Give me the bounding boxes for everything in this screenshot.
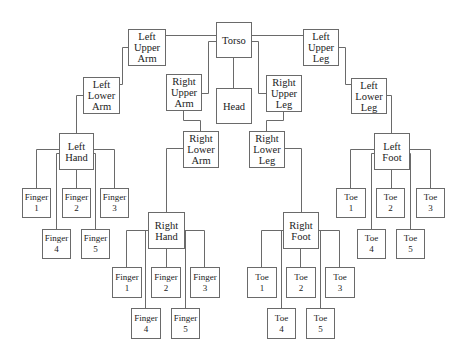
node-right-lower-leg[interactable]: Right Lower Leg bbox=[249, 131, 285, 168]
node-right-foot-toe-5[interactable]: Toe 5 bbox=[306, 308, 335, 339]
node-right-foot-toe-3[interactable]: Toe 3 bbox=[325, 267, 355, 298]
node-left-upper-arm[interactable]: Left Upper Arm bbox=[128, 29, 166, 66]
node-left-foot[interactable]: Left Foot bbox=[374, 133, 410, 170]
node-head[interactable]: Head bbox=[216, 88, 252, 124]
edge-left-upper-leg-left-lower-leg bbox=[339, 48, 352, 85]
edge-left-hand-finger-3 bbox=[94, 150, 115, 189]
node-left-foot-toe-5[interactable]: Toe 5 bbox=[396, 229, 425, 259]
node-left-foot-toe-4[interactable]: Toe 4 bbox=[357, 229, 386, 259]
node-left-hand-finger-1[interactable]: Finger 1 bbox=[22, 188, 51, 218]
node-right-lower-arm[interactable]: Right Lower Arm bbox=[183, 131, 219, 168]
edge-right-foot-toe-1 bbox=[262, 231, 284, 268]
node-right-foot-toe-1[interactable]: Toe 1 bbox=[247, 267, 277, 298]
node-left-lower-arm[interactable]: Left Lower Arm bbox=[83, 77, 120, 114]
edge-left-foot-toe-1 bbox=[351, 150, 375, 189]
node-right-hand-finger-5[interactable]: Finger 5 bbox=[171, 308, 200, 339]
node-left-hand-finger-2[interactable]: Finger 2 bbox=[62, 188, 91, 218]
node-right-hand-finger-2[interactable]: Finger 2 bbox=[151, 267, 181, 298]
body-hierarchy-diagram: Torso Head Left Upper Arm Left Lower Arm… bbox=[0, 0, 460, 356]
node-left-foot-toe-2[interactable]: Toe 2 bbox=[376, 188, 405, 218]
node-right-hand[interactable]: Right Hand bbox=[148, 212, 185, 249]
node-left-foot-toe-3[interactable]: Toe 3 bbox=[416, 188, 445, 218]
node-left-foot-toe-1[interactable]: Toe 1 bbox=[336, 188, 366, 218]
node-left-hand-finger-4[interactable]: Finger 4 bbox=[42, 229, 71, 259]
edge-torso-right-upper-leg bbox=[252, 42, 267, 94]
node-right-upper-leg[interactable]: Right Upper Leg bbox=[266, 75, 302, 112]
node-right-upper-arm[interactable]: Right Upper Arm bbox=[166, 74, 202, 111]
node-left-hand[interactable]: Left Hand bbox=[59, 133, 94, 170]
node-left-hand-finger-5[interactable]: Finger 5 bbox=[81, 229, 110, 259]
node-right-foot-toe-4[interactable]: Toe 4 bbox=[267, 308, 296, 339]
node-left-upper-leg[interactable]: Left Upper Leg bbox=[303, 29, 339, 66]
edge-left-lower-leg-left-foot bbox=[387, 96, 392, 134]
node-right-hand-finger-3[interactable]: Finger 3 bbox=[190, 267, 220, 298]
node-left-hand-finger-3[interactable]: Finger 3 bbox=[100, 188, 129, 218]
edge-right-upper-arm-right-lower-arm bbox=[184, 111, 201, 132]
node-right-hand-finger-1[interactable]: Finger 1 bbox=[112, 267, 142, 298]
edge-right-foot-toe-3 bbox=[319, 231, 340, 268]
node-right-foot[interactable]: Right Foot bbox=[283, 212, 319, 249]
edge-torso-right-upper-arm bbox=[202, 42, 217, 94]
edge-right-lower-leg-right-foot bbox=[285, 149, 302, 213]
node-right-foot-toe-2[interactable]: Toe 2 bbox=[286, 267, 316, 298]
node-torso[interactable]: Torso bbox=[216, 22, 252, 58]
edge-right-lower-arm-right-hand bbox=[167, 149, 184, 213]
node-right-hand-finger-4[interactable]: Finger 4 bbox=[131, 308, 161, 339]
edge-right-hand-finger-3 bbox=[185, 231, 205, 268]
edge-left-foot-toe-3 bbox=[410, 150, 431, 189]
node-left-lower-leg[interactable]: Left Lower Leg bbox=[351, 78, 387, 114]
edge-right-upper-leg-right-lower-leg bbox=[267, 112, 284, 132]
